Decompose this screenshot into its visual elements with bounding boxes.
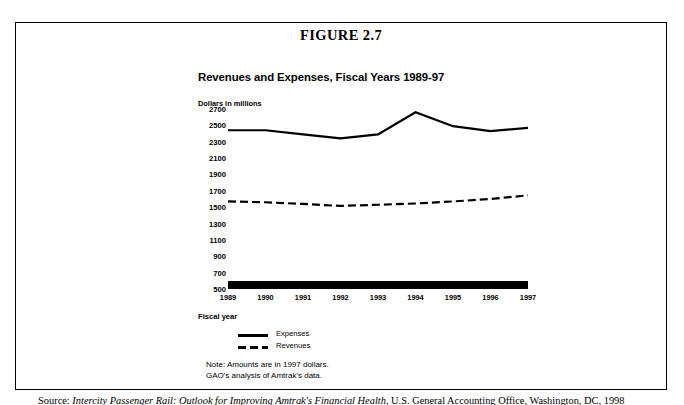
legend-label-expenses: Expenses [276,329,309,338]
x-axis-title: Fiscal year [198,312,237,321]
series-line-revenues [228,195,528,206]
series-line-expenses [228,112,528,138]
figure-frame: FIGURE 2.7 Revenues and Expenses, Fiscal… [15,22,667,390]
figure-page: FIGURE 2.7 Revenues and Expenses, Fiscal… [0,0,684,405]
legend-item-revenues: Revenues [238,341,418,353]
y-axis-tick-2100: 2100 [209,154,226,163]
series-canvas [228,109,528,289]
note-line-2: GAO's analysis of Amtrak's data. [206,370,329,381]
x-axis-tick-1990: 1990 [257,293,273,302]
chart-svg [228,109,528,289]
chart-title: Revenues and Expenses, Fiscal Years 1989… [198,71,444,83]
chart-legend: Expenses Revenues [238,329,418,353]
legend-swatch-solid-icon [238,334,268,337]
x-axis-tick-labels: 198919901991199219931994199519961997 [198,293,528,305]
y-axis-tick-labels: 2700250023002100190017001500130011009007… [198,109,226,289]
x-axis-tick-1993: 1993 [370,293,386,302]
legend-swatch-dashed-icon [238,346,268,349]
source-line: Source: Intercity Passenger Rail: Outloo… [38,395,648,405]
x-axis-tick-1997: 1997 [520,293,536,302]
y-axis-tick-2300: 2300 [209,137,226,146]
y-axis-tick-2700: 2700 [209,105,226,114]
x-axis-tick-1996: 1996 [482,293,498,302]
legend-item-expenses: Expenses [238,329,418,341]
y-axis-tick-1100: 1100 [210,235,226,244]
chart-notes: Note: Amounts are in 1997 dollars. GAO's… [206,359,329,381]
source-divider [32,389,650,390]
y-axis-tick-1700: 1700 [209,186,226,195]
y-axis-tick-700: 700 [213,268,226,277]
y-axis-tick-1300: 1300 [209,219,226,228]
source-title: Intercity Passenger Rail: Outlook for Im… [72,395,386,405]
x-axis-tick-1992: 1992 [332,293,348,302]
plot-container: 2700250023002100190017001500130011009007… [198,109,528,289]
source-prefix: Source: [38,395,70,405]
y-axis-tick-1900: 1900 [209,170,226,179]
y-axis-tick-1500: 1500 [209,203,226,212]
x-axis-tick-1995: 1995 [445,293,461,302]
plot-area [228,109,528,289]
y-axis-unit-label: Dollars in millions [198,99,262,108]
x-axis-tick-1994: 1994 [407,293,423,302]
figure-number-label: FIGURE 2.7 [16,27,666,44]
legend-label-revenues: Revenues [276,341,310,350]
note-line-1: Note: Amounts are in 1997 dollars. [206,359,329,370]
x-axis-tick-1989: 1989 [220,293,236,302]
axis-floor-3d [228,281,528,289]
y-axis-tick-2500: 2500 [209,121,226,130]
y-axis-tick-900: 900 [213,252,226,261]
x-axis-tick-1991: 1991 [295,293,311,302]
source-rest: , U.S. General Accounting Office, Washin… [386,395,625,405]
